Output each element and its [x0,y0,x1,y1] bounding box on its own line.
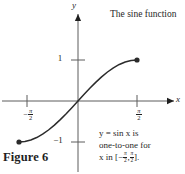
annotation-line-2: one-to-one for [99,140,183,152]
y-tick-label-one: 1 [54,53,66,64]
annotation-line-3: x in [−π2,π2]. [99,152,183,164]
fraction-denominator-two: 2 [123,158,127,164]
figure-caption-title: The sine function [110,8,180,20]
y-axis-label: y [72,0,76,11]
sine-curve-upper-tail [131,43,137,59]
y-axis-arrowhead [75,14,81,21]
sine-property-annotation: y = sin x is one-to-one for x in [−π2,π2… [99,128,183,164]
right-endpoint-dot [134,57,139,62]
figure-number-label: Figure 6 [3,150,48,165]
annotation-interval-suffix: ]. [134,152,139,162]
x-tick-label-pos-half-pi: π2 [127,108,151,122]
fraction-denominator-two: 2 [28,115,33,122]
half-pi-fraction: π2 [28,108,33,122]
fraction-denominator-two: 2 [130,158,134,164]
interval-upper-fraction: π2 [130,151,134,163]
figure-container: y x 1 −1 −π2 π2 The sine function y = si… [0,0,185,174]
left-endpoint-dot [16,139,21,144]
fraction-denominator-two: 2 [136,115,141,122]
y-tick-label-minus-one: −1 [49,135,67,146]
x-tick-label-neg-half-pi: −π2 [16,108,40,122]
annotation-line-1: y = sin x is [99,128,183,140]
annotation-interval-prefix: x in [− [99,152,123,162]
x-axis-label: x [176,94,180,105]
x-axis-arrowhead [167,98,174,104]
interval-lower-fraction: π2 [123,151,127,163]
half-pi-fraction: π2 [136,108,141,122]
